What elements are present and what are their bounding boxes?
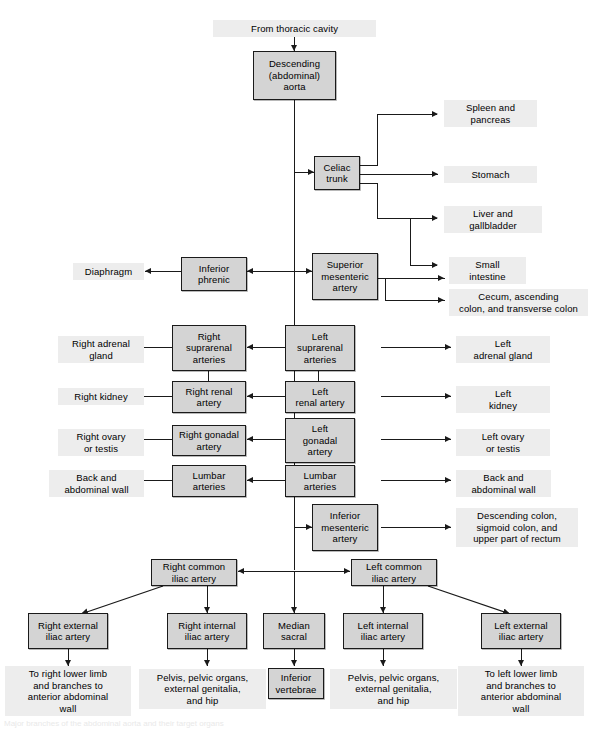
node-left-common-iliac-artery[interactable]: Left common iliac artery xyxy=(351,559,437,586)
arrowhead-sma-to-cecum xyxy=(438,297,444,303)
arrowhead-ima-to-descending-colon xyxy=(445,524,451,530)
node-inferior-phrenic[interactable]: Inferior phrenic xyxy=(181,257,247,291)
arrowhead-celiac-to-spleen xyxy=(432,111,438,117)
flowchart-canvas: From thoracic cavity Descending (abdomin… xyxy=(0,0,591,729)
edge-left-suprarenal-to-adrenal xyxy=(381,347,451,348)
node-left-gonadal-artery[interactable]: Left gonadal artery xyxy=(285,418,355,463)
edge-right-common-to-right-external xyxy=(81,586,163,614)
arrowhead-left-gonadal-to-ovary xyxy=(445,436,451,442)
node-from-thoracic-cavity[interactable]: From thoracic cavity xyxy=(213,20,376,37)
arrowhead-left-internal-to-pelvis xyxy=(380,660,386,666)
node-right-back-and-abdominal-wall[interactable]: Back and abdominal wall xyxy=(49,470,144,497)
arrowhead-left-renal-to-left-kidney xyxy=(445,393,451,399)
node-left-lumbar-arteries[interactable]: Lumbar arteries xyxy=(285,465,355,497)
arrowhead-aorta-to-right-renal xyxy=(247,393,253,399)
node-right-kidney[interactable]: Right kidney xyxy=(58,388,144,405)
arrowhead-sma-to-small-intestine-2 xyxy=(438,275,444,281)
node-right-gonadal-artery[interactable]: Right gonadal artery xyxy=(172,425,246,456)
node-small-intestine[interactable]: Small intestine xyxy=(449,257,526,284)
edge-sma-riser-to-liver xyxy=(410,218,411,266)
arrowhead-aorta-to-right-common-iliac xyxy=(238,568,244,574)
arrowhead-aorta-to-right-lumbar xyxy=(247,477,253,483)
edge-sma-to-cecum-run xyxy=(385,300,445,301)
node-right-ovary-or-testis[interactable]: Right ovary or testis xyxy=(58,429,144,456)
edge-left-lumbar-to-back xyxy=(381,480,451,481)
edge-celiac-to-spleen-run xyxy=(377,114,437,115)
node-right-common-iliac-artery[interactable]: Right common iliac artery xyxy=(151,559,237,586)
edge-celiac-to-spleen-riser xyxy=(377,114,378,166)
arrowhead-aorta-to-right-suprarenal xyxy=(247,344,253,350)
node-diaphragm[interactable]: Diaphragm xyxy=(73,263,144,280)
arrowhead-sma-to-small-intestine xyxy=(432,262,438,268)
arrowhead-aorta-to-inferior-phrenic xyxy=(247,268,253,274)
node-left-pelvis-organs[interactable]: Pelvis, pelvic organs, external genitali… xyxy=(330,669,457,709)
arrowhead-median-sacral-to-vertebrae xyxy=(291,660,297,666)
node-left-ovary-or-testis[interactable]: Left ovary or testis xyxy=(456,429,550,456)
node-descending-aorta[interactable]: Descending (abdominal) aorta xyxy=(253,51,336,100)
arrowhead-left-suprarenal-to-adrenal xyxy=(445,344,451,350)
node-stomach[interactable]: Stomach xyxy=(444,166,537,183)
node-median-sacral[interactable]: Median sacral xyxy=(263,613,325,649)
edge-ima-to-descending-colon xyxy=(381,527,451,528)
node-left-renal-artery[interactable]: Left renal artery xyxy=(285,381,355,413)
node-descending-sigmoid-rectum[interactable]: Descending colon, sigmoid colon, and upp… xyxy=(456,508,578,547)
node-superior-mesenteric-artery[interactable]: Superior mesenteric artery xyxy=(312,253,378,300)
node-right-lumbar-arteries[interactable]: Lumbar arteries xyxy=(172,465,246,497)
figure-caption: Major branches of the abdominal aorta an… xyxy=(4,719,224,728)
node-right-adrenal-gland[interactable]: Right adrenal gland xyxy=(58,336,144,363)
arrowhead-inferior-phrenic-to-diaphragm xyxy=(145,268,151,274)
node-right-internal-iliac-artery[interactable]: Right internal iliac artery xyxy=(167,613,247,649)
edge-sma-trunk-out xyxy=(367,278,445,279)
node-inferior-vertebrae[interactable]: Inferior vertebrae xyxy=(268,668,324,699)
edge-celiac-to-liver-stub xyxy=(360,183,378,184)
edge-celiac-to-liver-riser xyxy=(377,183,378,219)
node-spleen-and-pancreas[interactable]: Spleen and pancreas xyxy=(444,100,537,127)
edge-aorta-to-inferior-phrenic xyxy=(247,271,295,272)
node-left-suprarenal-arteries[interactable]: Left suprarenal arteries xyxy=(285,325,355,371)
node-right-pelvis-organs[interactable]: Pelvis, pelvic organs, external genitali… xyxy=(139,669,266,709)
node-right-renal-artery[interactable]: Right renal artery xyxy=(172,381,246,413)
node-right-external-iliac-artery[interactable]: Right external iliac artery xyxy=(28,613,108,649)
arrowhead-celiac-to-stomach xyxy=(432,171,438,177)
node-left-adrenal-gland[interactable]: Left adrenal gland xyxy=(456,336,550,363)
edge-sma-to-cecum-riser xyxy=(385,278,386,301)
node-left-back-and-abdominal-wall[interactable]: Back and abdominal wall xyxy=(456,470,551,497)
node-left-external-iliac-artery[interactable]: Left external iliac artery xyxy=(481,613,561,649)
arrowhead-left-lumbar-to-back xyxy=(445,477,451,483)
arrowhead-celiac-to-liver xyxy=(432,215,438,221)
node-right-suprarenal-arteries[interactable]: Right suprarenal arteries xyxy=(172,325,246,371)
node-to-right-lower-limb[interactable]: To right lower limb and branches to ante… xyxy=(5,666,131,716)
node-celiac-trunk[interactable]: Celiac trunk xyxy=(314,156,360,190)
node-left-internal-iliac-artery[interactable]: Left internal iliac artery xyxy=(343,613,423,649)
edge-celiac-to-liver-run xyxy=(377,218,437,219)
edge-left-renal-to-left-kidney xyxy=(381,396,451,397)
node-to-left-lower-limb[interactable]: To left lower limb and branches to anter… xyxy=(458,666,584,716)
edge-celiac-to-spleen-stub xyxy=(360,165,378,166)
node-liver-and-gallbladder[interactable]: Liver and gallbladder xyxy=(444,206,542,233)
arrowhead-right-internal-to-pelvis xyxy=(204,660,210,666)
node-left-kidney[interactable]: Left kidney xyxy=(456,386,550,413)
edge-left-gonadal-to-ovary xyxy=(381,439,451,440)
arrowhead-aorta-to-left-common-iliac xyxy=(344,568,350,574)
edge-left-common-to-left-external xyxy=(428,586,510,614)
edge-celiac-to-stomach xyxy=(360,174,438,175)
node-inferior-mesenteric-artery[interactable]: Inferior mesenteric artery xyxy=(312,504,378,551)
node-cecum-ascending-transverse-colon[interactable]: Cecum, ascending colon, and transverse c… xyxy=(449,289,588,316)
arrowhead-aorta-to-right-gonadal xyxy=(247,436,253,442)
